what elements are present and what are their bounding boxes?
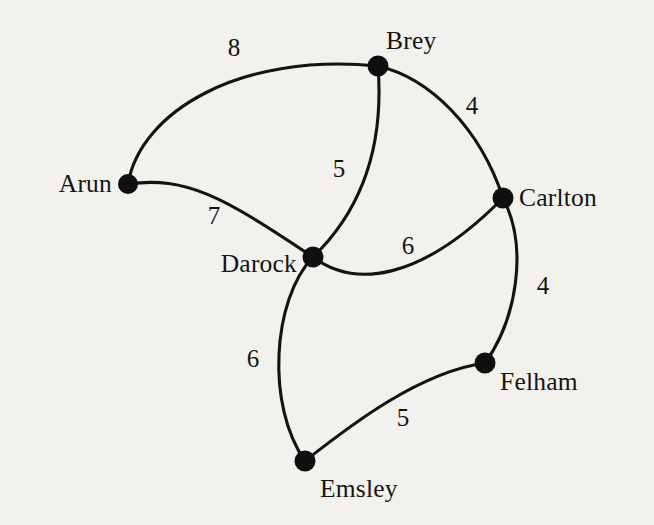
graph-node-dot [493, 188, 514, 209]
edge-weight-label: 7 [208, 203, 221, 228]
edge-weight-label: 6 [402, 233, 415, 258]
edge-weight-label: 4 [537, 273, 550, 298]
edge-weight-label: 4 [466, 93, 479, 118]
edge-weight-label: 5 [333, 156, 346, 181]
node-label-emsley: Emsley [320, 476, 398, 502]
node-label-arun: Arun [59, 171, 112, 197]
node-label-brey: Brey [386, 28, 436, 54]
graph-edge [313, 66, 379, 257]
node-label-carlton: Carlton [519, 185, 597, 211]
node-label-felham: Felham [500, 369, 578, 395]
node-label-darock: Darock [221, 251, 297, 277]
edge-weight-label: 5 [397, 405, 410, 430]
graph-edge [378, 66, 503, 198]
graph-node-dot [295, 451, 316, 472]
graph-node-dot [118, 174, 138, 194]
graph-node-dot [368, 56, 389, 77]
edge-weight-label: 8 [228, 35, 241, 60]
graph-node-dot [303, 247, 324, 268]
graph-node-dot [475, 353, 496, 374]
graph-edge [485, 198, 517, 363]
graph-edge [128, 182, 313, 257]
edges-group [128, 64, 517, 461]
graph-edge [305, 363, 485, 461]
nodes-group [118, 56, 514, 472]
graph-edge [279, 257, 313, 461]
edge-weight-label: 6 [247, 346, 260, 371]
graph-canvas [0, 0, 654, 525]
graph-diagram: ArunBreyCarltonDarockFelhamEmsley 845764… [0, 0, 654, 525]
